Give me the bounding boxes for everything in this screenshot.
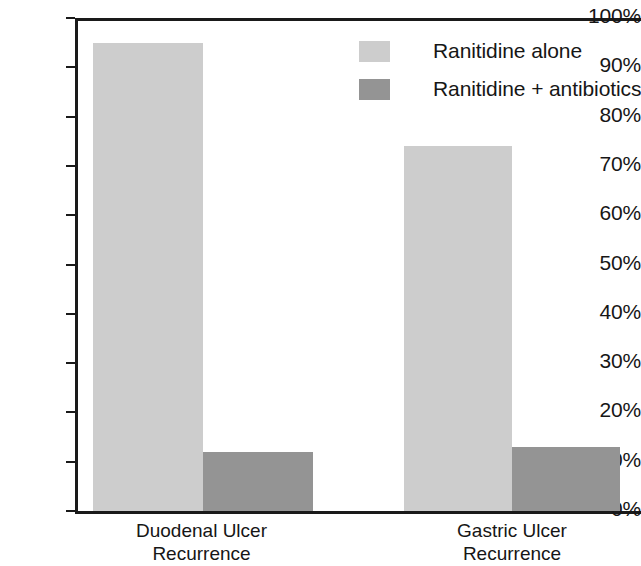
x-axis-label-line: Gastric Ulcer xyxy=(404,519,620,542)
legend-swatch-icon xyxy=(359,41,390,62)
y-axis-tick xyxy=(66,116,75,118)
y-axis-tick xyxy=(66,411,75,413)
x-axis-label-line: Recurrence xyxy=(404,542,620,565)
legend-label: Ranitidine alone xyxy=(433,39,582,63)
legend-item-0: Ranitidine alone xyxy=(359,32,641,70)
y-axis-tick xyxy=(66,461,75,463)
bar-chart: 100%90%80%70%60%50%40%30%20%10%0% Duoden… xyxy=(0,0,641,566)
x-axis-label-0: Duodenal UlcerRecurrence xyxy=(93,519,310,565)
y-axis-tick xyxy=(66,17,75,19)
y-axis-tick xyxy=(66,362,75,364)
legend-label: Ranitidine + antibiotics xyxy=(433,77,641,101)
y-axis-tick xyxy=(66,165,75,167)
bar-1-1 xyxy=(512,447,620,511)
y-axis-tick xyxy=(66,264,75,266)
y-axis-tick xyxy=(66,66,75,68)
x-axis-line xyxy=(75,511,641,514)
y-axis-tick xyxy=(66,214,75,216)
y-axis-tick xyxy=(66,510,75,512)
legend-swatch-icon xyxy=(359,79,390,100)
legend-item-1: Ranitidine + antibiotics xyxy=(359,70,641,108)
bar-1-0 xyxy=(404,146,512,511)
x-axis-label-line: Duodenal Ulcer xyxy=(93,519,310,542)
y-axis-tick xyxy=(66,313,75,315)
x-axis-label-line: Recurrence xyxy=(93,542,310,565)
chart-legend: Ranitidine aloneRanitidine + antibiotics xyxy=(359,32,641,108)
bar-0-1 xyxy=(203,452,313,511)
x-axis-label-1: Gastric UlcerRecurrence xyxy=(404,519,620,565)
bar-0-0 xyxy=(93,43,203,511)
